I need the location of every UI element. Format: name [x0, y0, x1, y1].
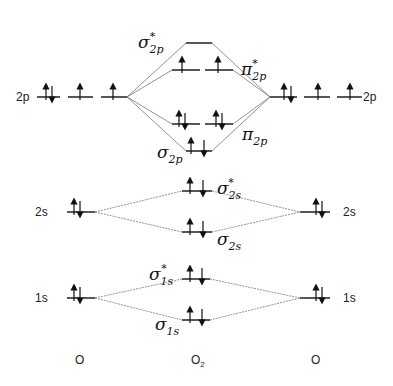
- left-atom-label: O: [75, 353, 84, 367]
- sigma-2p-star-label: σ2p*: [138, 30, 164, 56]
- pi-2p-orbitals: π2p: [172, 113, 267, 148]
- right-2s-label: 2s: [343, 205, 356, 219]
- right-1s-orbital: 1s: [300, 287, 356, 305]
- sigma-2s-star-label: σ2s*: [217, 176, 242, 202]
- mo-diagram: 2p 2p σ2p* π2p*: [0, 0, 393, 386]
- connections-1s: [95, 279, 300, 320]
- left-2s-orbital: 2s: [35, 201, 95, 219]
- pi-2p-label: π2p: [241, 124, 267, 148]
- connections-2s: [95, 191, 300, 232]
- left-1s-label: 1s: [35, 291, 48, 305]
- right-2p-label: 2p: [363, 90, 377, 104]
- sigma-1s-orbital: σ1s: [155, 309, 210, 338]
- left-2p-orbitals: 2p: [16, 86, 127, 104]
- molecule-label: O2: [191, 353, 205, 369]
- sigma-2s-orbital: σ2s: [182, 221, 242, 253]
- sigma-2p-orbital: σ2p: [157, 140, 212, 166]
- left-2p-label: 2p: [16, 90, 30, 104]
- sigma-2s-star-orbital: σ2s*: [182, 176, 242, 202]
- right-2p-orbitals: 2p: [270, 86, 377, 104]
- left-2s-label: 2s: [35, 205, 48, 219]
- pi-2p-star-orbitals: π2p*: [172, 57, 266, 83]
- right-atom-label: O: [311, 353, 320, 367]
- column-labels: O O2 O: [75, 353, 320, 369]
- right-1s-label: 1s: [343, 291, 356, 305]
- sigma-1s-label: σ1s: [155, 314, 180, 338]
- left-1s-orbital: 1s: [35, 287, 95, 305]
- sigma-1s-star-label: σ1s*: [149, 262, 174, 288]
- right-2s-orbital: 2s: [300, 201, 356, 219]
- sigma-2p-star-orbital: σ2p*: [138, 30, 212, 56]
- sigma-2s-label: σ2s: [217, 229, 242, 253]
- pi-2p-star-label: π2p*: [240, 57, 266, 83]
- sigma-2p-label: σ2p: [157, 142, 183, 166]
